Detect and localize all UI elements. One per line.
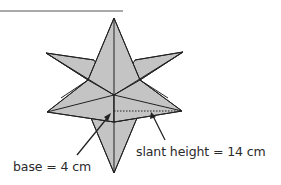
- star-diagram: base = 4 cm slant height = 14 cm: [0, 0, 281, 185]
- slant-height-arrow: [150, 112, 165, 140]
- base-label: base = 4 cm: [13, 159, 91, 174]
- slant-height-label: slant height = 14 cm: [136, 144, 266, 159]
